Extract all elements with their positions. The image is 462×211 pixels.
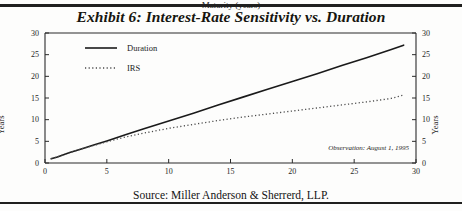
y-tick-label-left: 10: [31, 115, 39, 124]
x-tick-label: 10: [165, 167, 173, 176]
y-tick-label-right: 15: [422, 94, 430, 103]
x-tick-label: 5: [105, 167, 109, 176]
y-axis-left-label: Years: [0, 116, 6, 135]
y-tick-label-left: 0: [35, 159, 39, 168]
x-tick-label: 25: [350, 167, 358, 176]
legend-label-irs: IRS: [127, 63, 141, 73]
chart-svg: 051015202530051015202530051015202530Dura…: [0, 26, 462, 176]
top-rule: [0, 4, 462, 7]
bottom-rule: [0, 202, 462, 204]
y-tick-label-left: 30: [31, 29, 39, 38]
x-tick-label: 0: [43, 167, 47, 176]
x-tick-label: 15: [227, 167, 235, 176]
exhibit-title: Exhibit 6: Interest-Rate Sensitivity vs.…: [0, 8, 462, 26]
observation-annotation: Observation: August 1, 1995: [328, 144, 409, 152]
series-line-duration: [51, 45, 403, 159]
y-tick-label-right: 0: [422, 159, 426, 168]
y-tick-label-right: 10: [422, 115, 430, 124]
y-tick-label-left: 15: [31, 94, 39, 103]
x-tick-label: 20: [288, 167, 296, 176]
y-tick-label-right: 25: [422, 50, 430, 59]
y-tick-label-left: 20: [31, 72, 39, 81]
x-tick-label: 30: [412, 167, 420, 176]
y-tick-label-right: 20: [422, 72, 430, 81]
source-caption: Source: Miller Anderson & Sherrerd, LLP.: [0, 189, 462, 201]
y-tick-label-left: 5: [35, 137, 39, 146]
exhibit-figure: Exhibit 6: Interest-Rate Sensitivity vs.…: [0, 0, 462, 211]
y-tick-label-right: 5: [422, 137, 426, 146]
y-tick-label-left: 25: [31, 50, 39, 59]
y-tick-label-right: 30: [422, 29, 430, 38]
legend-label-duration: Duration: [127, 43, 158, 53]
plot-area: 051015202530051015202530051015202530Dura…: [0, 26, 462, 176]
y-axis-right-label: Years: [430, 116, 440, 135]
